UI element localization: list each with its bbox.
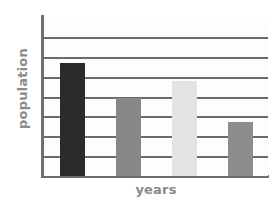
y-axis-label: population bbox=[0, 0, 44, 176]
bar bbox=[60, 63, 85, 176]
x-axis-label: years bbox=[44, 182, 268, 197]
bar bbox=[172, 81, 197, 176]
bars-layer bbox=[44, 17, 268, 176]
plot-area bbox=[44, 17, 268, 176]
bar-chart-figure: population years bbox=[0, 0, 278, 213]
bar bbox=[116, 98, 141, 176]
y-axis-label-text: population bbox=[15, 48, 30, 129]
bar bbox=[228, 122, 253, 176]
